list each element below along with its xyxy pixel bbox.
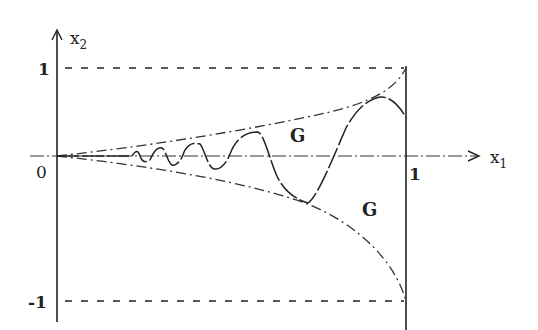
region-g-upper: G [290, 125, 305, 146]
diagram: x2 x1 0 1 1 -1 G G [0, 0, 538, 330]
lower-envelope [57, 156, 406, 301]
origin-label: 0 [36, 162, 47, 182]
oscillating-trajectory [57, 97, 406, 203]
x2-axis-label: x2 [70, 28, 87, 52]
x2-tick-label-minus1: -1 [28, 292, 47, 312]
x1-tick-label-1: 1 [409, 164, 421, 184]
region-g-lower: G [362, 199, 377, 220]
upper-envelope [57, 68, 406, 156]
x2-tick-label-1: 1 [38, 59, 50, 79]
x1-axis-label: x1 [490, 147, 507, 171]
